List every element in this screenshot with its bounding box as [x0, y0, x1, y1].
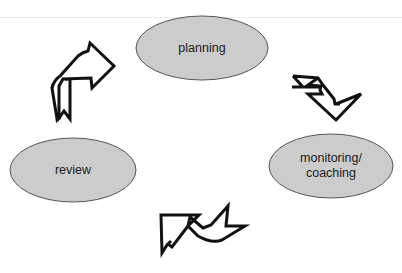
- node-label-review: review: [55, 163, 91, 178]
- curved-arrow-up-right-icon: [52, 43, 114, 119]
- review-text: review: [55, 163, 91, 177]
- monitoring-text-line2: coaching: [300, 166, 362, 181]
- planning-text: planning: [178, 41, 225, 55]
- node-label-planning: planning: [178, 41, 225, 56]
- monitoring-text-line1: monitoring/: [300, 151, 362, 166]
- curved-arrow-down-right-icon: [292, 76, 361, 120]
- node-label-monitoring: monitoring/ coaching: [300, 151, 362, 181]
- curved-arrow-down-left-icon: [161, 206, 245, 253]
